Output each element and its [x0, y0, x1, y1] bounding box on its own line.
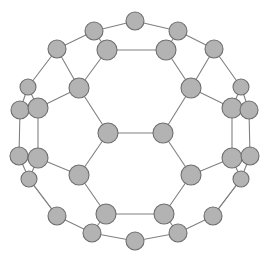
graph-node [48, 40, 66, 58]
graph-node [153, 123, 173, 143]
graph-node [85, 22, 103, 40]
graph-node [98, 123, 118, 143]
graph-node [222, 148, 242, 168]
graph-node [181, 165, 201, 185]
graph-canvas [0, 0, 268, 262]
graph-node [154, 204, 174, 224]
graph-node [222, 98, 242, 118]
graph-node [83, 224, 101, 242]
graph-node [233, 79, 249, 95]
graph-node [126, 232, 144, 250]
graph-node [20, 79, 36, 95]
graph-node [48, 207, 66, 225]
graph-node [126, 12, 144, 30]
graph-node [28, 98, 48, 118]
graph-node [69, 78, 89, 98]
graph-node [241, 147, 259, 165]
graph-node [69, 165, 89, 185]
graph-node [240, 101, 258, 119]
graph-node [97, 40, 117, 60]
graph-node [28, 148, 48, 168]
graph-node [11, 101, 29, 119]
graph-node [204, 207, 222, 225]
graph-node [181, 78, 201, 98]
graph-node [10, 147, 28, 165]
graph-node [233, 171, 249, 187]
graph-node [96, 204, 116, 224]
graph-node [205, 40, 223, 58]
graph-node [156, 40, 176, 60]
graph-node [169, 224, 187, 242]
graph-node [169, 22, 187, 40]
graph-node [21, 171, 37, 187]
fullerene-graph-figure [0, 0, 268, 262]
